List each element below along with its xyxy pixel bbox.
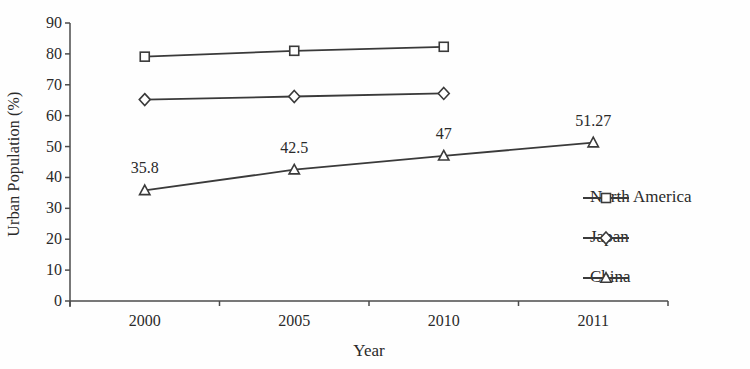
x-tick-label: 2000 <box>100 312 190 330</box>
data-label: 35.8 <box>131 159 159 177</box>
y-tick-label: 80 <box>0 45 62 63</box>
legend-item-japan: Japan <box>583 227 629 247</box>
data-label: 42.5 <box>280 139 308 157</box>
data-label: 51.27 <box>575 112 611 130</box>
x-tick-label: 2011 <box>548 312 638 330</box>
square-marker <box>602 194 611 203</box>
diamond-marker <box>601 232 612 244</box>
triangle-marker <box>588 137 598 147</box>
diamond-marker <box>438 87 449 99</box>
y-tick-label: 60 <box>0 107 62 125</box>
x-tick-label: 2010 <box>399 312 489 330</box>
y-tick-label: 40 <box>0 168 62 186</box>
y-tick-label: 30 <box>0 199 62 217</box>
square-marker <box>140 52 149 61</box>
diamond-marker <box>289 91 300 103</box>
y-tick-label: 20 <box>0 230 62 248</box>
urban-population-line-chart: Urban Population (%) Year 01020304050607… <box>0 0 750 369</box>
data-label: 47 <box>436 125 452 143</box>
square-legend-icon <box>583 187 629 209</box>
y-tick-label: 70 <box>0 76 62 94</box>
square-marker <box>290 46 299 55</box>
square-marker <box>439 42 448 51</box>
triangle-legend-icon <box>583 267 629 289</box>
legend-item-china: China <box>583 267 631 287</box>
y-tick-label: 0 <box>0 292 62 310</box>
y-tick-label: 10 <box>0 261 62 279</box>
legend-item-north-america: North America <box>583 187 692 207</box>
series-line-china <box>145 143 594 191</box>
diamond-legend-icon <box>583 227 629 249</box>
diamond-marker <box>139 94 150 106</box>
y-tick-label: 90 <box>0 14 62 32</box>
x-tick-label: 2005 <box>249 312 339 330</box>
y-tick-label: 50 <box>0 138 62 156</box>
x-axis-title: Year <box>353 341 384 361</box>
